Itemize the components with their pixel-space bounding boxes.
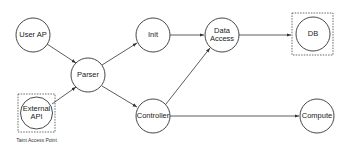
node-data-access[interactable]: Data Access	[205, 18, 239, 52]
node-label: User AP	[19, 30, 47, 39]
node-label-line2: API	[30, 112, 42, 121]
node-external-api[interactable]: External API	[21, 97, 53, 129]
edge-controller-dataaccess	[166, 48, 210, 104]
node-db[interactable]: DB	[296, 17, 330, 51]
node-label: Controller	[137, 111, 170, 120]
edge-externalapi-parser	[52, 87, 76, 104]
node-compute[interactable]: Compute	[300, 99, 334, 133]
node-label: Compute	[302, 111, 332, 120]
node-label: Parser	[77, 70, 100, 79]
edge-parser-controller	[102, 86, 137, 107]
node-label-line2: Access	[210, 34, 234, 43]
node-parser[interactable]: Parser	[71, 58, 105, 92]
taint-caption: Taint Access Point	[16, 137, 57, 143]
flow-diagram: User AP External API Parser Init Control…	[0, 0, 351, 150]
node-label: DB	[308, 29, 318, 38]
edge-userap-parser	[47, 44, 76, 63]
node-init[interactable]: Init	[136, 18, 170, 52]
node-controller[interactable]: Controller	[136, 99, 170, 133]
edge-parser-init	[102, 43, 137, 65]
node-user-ap[interactable]: User AP	[16, 18, 50, 52]
node-label: Init	[148, 30, 159, 39]
